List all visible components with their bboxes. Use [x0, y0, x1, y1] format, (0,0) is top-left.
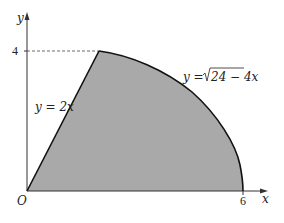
y-axis-arrow-icon — [25, 12, 30, 20]
sqrt-label-lhs: y = — [182, 70, 204, 84]
sqrt-radicand: 24 − 4x — [210, 70, 259, 84]
y-axis-label: y — [16, 11, 24, 25]
line-equation-label: y = 2x — [34, 100, 74, 114]
x-tick-label: 6 — [240, 194, 246, 208]
sqrt-equation-label: y = 24 − 4x — [182, 68, 259, 84]
origin-label: O — [17, 194, 27, 208]
diagram-canvas: y 4 O 6 x y = 2x y = 24 − 4x — [0, 0, 284, 223]
x-axis-label: x — [262, 192, 269, 206]
y-tick-label: 4 — [12, 44, 18, 58]
